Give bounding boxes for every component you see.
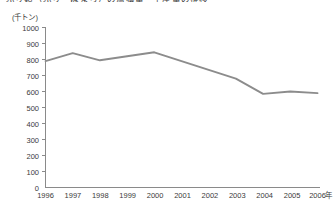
x-tick-label-1996: 1996 <box>37 191 54 200</box>
x-axis-group: 1996 1997 1998 1999 2000 2001 2002 2003 … <box>37 188 333 201</box>
x-tick-label-2000: 2000 <box>147 191 164 200</box>
chart-container: ぶり類（ぶり・はまち）の漁獲量・生産量の推移 (千トン) 1000 900 80… <box>0 0 334 204</box>
y-tick-label-100: 100 <box>26 168 39 177</box>
x-tick-label-2004: 2004 <box>256 191 273 200</box>
x-tick-label-2003: 2003 <box>229 191 246 200</box>
x-axis-suffix-label: 年 <box>325 190 333 200</box>
y-axis-group: 1000 900 800 700 600 500 400 300 200 100… <box>22 24 45 193</box>
x-tick-label-1999: 1999 <box>119 191 136 200</box>
x-tick-label-2001: 2001 <box>174 191 191 200</box>
y-tick-label-400: 400 <box>26 120 39 129</box>
x-tick-label-2002: 2002 <box>202 191 219 200</box>
y-tick-label-600: 600 <box>26 88 39 97</box>
x-tick-label-1998: 1998 <box>92 191 109 200</box>
x-tick-label-1997: 1997 <box>65 191 82 200</box>
y-tick-label-700: 700 <box>26 72 39 81</box>
x-tick-label-2006: 2006 <box>309 191 326 200</box>
x-tick-label-2005: 2005 <box>284 191 301 200</box>
line-chart-plot: 1000 900 800 700 600 500 400 300 200 100… <box>0 0 334 204</box>
y-tick-label-900: 900 <box>26 40 39 49</box>
data-series-line <box>46 52 318 94</box>
y-tick-label-500: 500 <box>26 104 39 113</box>
y-tick-label-1000: 1000 <box>22 24 39 33</box>
y-tick-label-300: 300 <box>26 136 39 145</box>
y-tick-label-800: 800 <box>26 56 39 65</box>
y-tick-label-200: 200 <box>26 152 39 161</box>
